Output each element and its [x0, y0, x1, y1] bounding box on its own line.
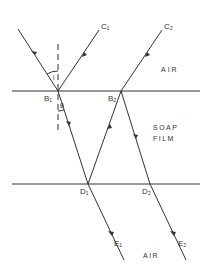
svg-text:D₂: D₂ [142, 187, 151, 196]
label-d1: D₁ [80, 187, 89, 196]
svg-text:D₁: D₁ [80, 187, 89, 196]
emerging-ray-c2 [121, 30, 162, 91]
incident-ray [18, 29, 58, 91]
soap-film-diagram: C₁ C₂ B₁ B₂ D₁ D₂ E₁ E₂ i θ AIR SOAP FIL… [0, 0, 212, 279]
arrow-icon [66, 121, 71, 126]
label-angle-i: i [53, 74, 55, 81]
label-film: FILM [153, 135, 175, 142]
angle-theta-arc [58, 110, 64, 111]
svg-text:AIR: AIR [161, 66, 179, 73]
label-c1: C₁ [101, 22, 110, 31]
label-c2: C₂ [164, 22, 173, 31]
label-angle-theta: θ [60, 102, 64, 109]
arrow-icon [170, 231, 176, 236]
internal-reflection-d1-b2 [88, 91, 121, 184]
svg-text:C₂: C₂ [164, 22, 173, 31]
svg-text:E₂: E₂ [178, 239, 186, 248]
arrow-icon [108, 231, 114, 236]
svg-text:SOAP: SOAP [153, 124, 178, 131]
reflected-ray-c1 [58, 30, 99, 91]
label-e1: E₁ [114, 239, 122, 248]
svg-text:B₁: B₁ [44, 94, 52, 103]
label-b2: B₂ [108, 94, 116, 103]
svg-text:C₁: C₁ [101, 22, 110, 31]
svg-text:θ: θ [60, 102, 64, 109]
transmitted-ray-e1 [88, 184, 124, 260]
label-d2: D₂ [142, 187, 151, 196]
label-e2: E₂ [178, 239, 186, 248]
svg-text:FILM: FILM [153, 135, 175, 142]
svg-text:B₂: B₂ [108, 94, 116, 103]
svg-text:i: i [53, 74, 55, 81]
label-b1: B₁ [44, 94, 52, 103]
svg-text:AIR: AIR [143, 252, 159, 259]
label-air-top: AIR [161, 66, 179, 73]
label-air-bottom: AIR [143, 252, 159, 259]
label-soap: SOAP [153, 124, 178, 131]
svg-text:E₁: E₁ [114, 239, 122, 248]
transmitted-ray-e2 [150, 184, 186, 260]
